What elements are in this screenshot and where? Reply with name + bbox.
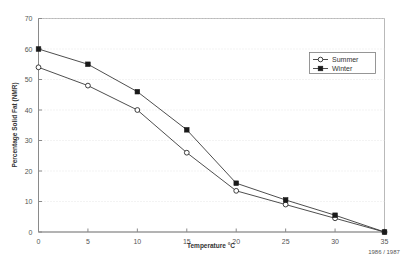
y-tick-label: 60 [25, 46, 33, 53]
data-point-open-circle [234, 188, 239, 193]
data-point-filled-square [184, 128, 189, 133]
open-circle-icon [318, 57, 323, 62]
legend-entry-summer: Summer [313, 56, 359, 63]
legend: Summer Winter [310, 53, 376, 74]
data-point-filled-square [36, 47, 41, 52]
data-point-open-circle [184, 150, 189, 155]
y-tick-label: 20 [25, 168, 33, 175]
x-tick-label: 35 [381, 238, 389, 245]
y-tick-label: 0 [29, 229, 33, 236]
period-annotation: 1986 / 1987 [368, 249, 400, 255]
chart-container: 05101520253035 010203040506070 Temperatu… [0, 0, 417, 266]
data-point-open-circle [36, 65, 41, 70]
x-tick-label: 10 [133, 238, 141, 245]
solid-fat-temperature-line-chart: 05101520253035 010203040506070 Temperatu… [0, 0, 417, 266]
y-tick-label: 10 [25, 198, 33, 205]
filled-square-icon [318, 66, 323, 71]
y-tick-label: 70 [25, 15, 33, 22]
y-tick-label: 40 [25, 107, 33, 114]
data-point-filled-square [135, 89, 140, 94]
data-point-open-circle [86, 83, 91, 88]
x-axis-title: Temperature °C [187, 242, 235, 250]
y-tick-label: 50 [25, 76, 33, 83]
data-point-filled-square [234, 181, 239, 186]
legend-entry-winter: Winter [313, 65, 353, 72]
data-point-open-circle [283, 202, 288, 207]
x-tick-label: 30 [331, 238, 339, 245]
y-tick-label: 30 [25, 137, 33, 144]
data-point-filled-square [283, 198, 288, 203]
data-point-filled-square [382, 230, 387, 235]
y-axis-title: Percentage Solid Fat (NMR) [11, 82, 19, 167]
x-tick-label: 25 [282, 238, 290, 245]
x-tick-label: 0 [37, 238, 41, 245]
data-point-open-circle [135, 108, 140, 113]
x-tick-label: 5 [86, 238, 90, 245]
legend-label-winter: Winter [332, 65, 353, 72]
data-point-filled-square [86, 62, 91, 67]
chart-background [0, 0, 417, 266]
data-point-filled-square [333, 213, 338, 218]
legend-label-summer: Summer [332, 56, 359, 63]
